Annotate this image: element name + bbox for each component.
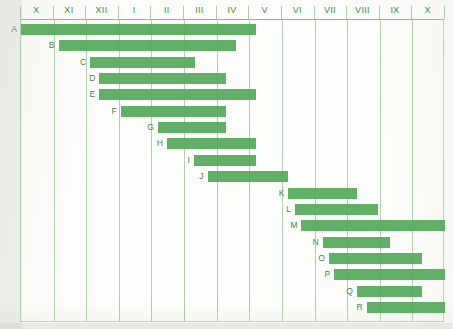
timeline-tick-7 — [248, 6, 249, 19]
timeline-tick-label-4: II — [150, 2, 183, 19]
timeline-tick-12 — [411, 6, 412, 19]
gantt-bar[interactable] — [99, 73, 226, 84]
gantt-row-label: F — [99, 106, 117, 117]
gantt-row-label: E — [77, 89, 95, 100]
scan-smudge-top-left — [0, 0, 22, 329]
gantt-row-label: N — [301, 237, 319, 248]
gantt-bar[interactable] — [121, 106, 227, 117]
timeline-tick-10 — [346, 6, 347, 19]
gantt-bar[interactable] — [59, 40, 237, 51]
gantt-bar[interactable] — [21, 24, 256, 35]
timeline-tick-label-0: X — [20, 2, 53, 19]
gantt-bar[interactable] — [167, 138, 256, 149]
timeline-tick-label-5: III — [183, 2, 216, 19]
gantt-row-label: P — [312, 269, 330, 280]
timeline-tick-11 — [379, 6, 380, 19]
timeline-tick-0 — [20, 6, 21, 19]
timeline-tick-label-12: X — [411, 2, 444, 19]
gantt-row-label: A — [0, 24, 17, 35]
gantt-row-label: L — [273, 204, 291, 215]
gantt-row-label: O — [307, 253, 325, 264]
gantt-row-label: B — [37, 40, 55, 51]
gantt-bar[interactable] — [323, 237, 390, 248]
timeline-tick-label-7: V — [248, 2, 281, 19]
gantt-row-label: G — [136, 122, 154, 133]
timeline-tick-end — [444, 6, 445, 19]
timeline-tick-1 — [53, 6, 54, 19]
gantt-bar[interactable] — [99, 89, 256, 100]
timeline-tick-label-8: VI — [281, 2, 314, 19]
timeline-tick-4 — [150, 6, 151, 19]
timeline-tick-label-3: I — [118, 2, 151, 19]
gantt-bar[interactable] — [90, 57, 195, 68]
gantt-row-label: K — [266, 188, 284, 199]
gantt-row-label: D — [77, 73, 95, 84]
gantt-bar[interactable] — [288, 188, 356, 199]
gantt-row-label: J — [186, 171, 204, 182]
gantt-bar[interactable] — [334, 269, 445, 280]
gantt-row-label: Q — [335, 286, 353, 297]
gantt-bar[interactable] — [194, 155, 256, 166]
gantt-row-label: H — [145, 138, 163, 149]
gantt-row-label: I — [172, 155, 190, 166]
timeline-tick-9 — [314, 6, 315, 19]
timeline-tick-5 — [183, 6, 184, 19]
gantt-bar[interactable] — [295, 204, 378, 215]
timeline-tick-label-1: XI — [53, 2, 86, 19]
timeline-tick-label-9: VII — [314, 2, 347, 19]
grid-line-2 — [86, 20, 87, 321]
timeline-tick-3 — [118, 6, 119, 19]
scan-smudge-bottom — [0, 323, 453, 329]
timeline-tick-8 — [281, 6, 282, 19]
gantt-row-label: R — [345, 302, 363, 313]
timeline-tick-label-2: XII — [85, 2, 118, 19]
timeline-tick-6 — [216, 6, 217, 19]
gantt-chart: XXIXIIIIIIIIIVVVIVIIVIIIIXX ABCDEFGHIJKL… — [0, 0, 453, 329]
timeline-header: XXIXIIIIIIIIIVVVIVIIVIIIIXX — [20, 2, 444, 19]
plot-area: ABCDEFGHIJKLMNOPQR — [20, 19, 444, 322]
timeline-tick-label-11: IX — [379, 2, 412, 19]
gantt-bar[interactable] — [301, 220, 445, 231]
gantt-bar[interactable] — [367, 302, 445, 313]
timeline-tick-label-6: IV — [216, 2, 249, 19]
gantt-bar[interactable] — [357, 286, 422, 297]
grid-line-1 — [54, 20, 55, 321]
gantt-row-label: M — [279, 220, 297, 231]
gantt-bar[interactable] — [158, 122, 226, 133]
timeline-tick-label-10: VIII — [346, 2, 379, 19]
gantt-row-label: C — [68, 57, 86, 68]
timeline-tick-2 — [85, 6, 86, 19]
gantt-bar[interactable] — [208, 171, 289, 182]
gantt-bar[interactable] — [329, 253, 422, 264]
